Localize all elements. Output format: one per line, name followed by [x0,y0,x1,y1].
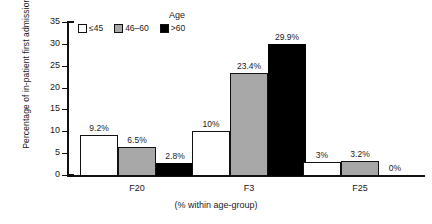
legend-label: ≤45 [89,23,103,33]
bar-F20-2 [156,163,194,176]
y-tick-mark [62,66,67,67]
y-tick-label: 30 [38,38,60,48]
y-tick-mark [62,153,67,154]
y-tick-label: 25 [38,60,60,70]
legend-label: >60 [171,23,185,33]
bar-value-label: 23.4% [226,61,272,71]
y-tick-mark [62,175,67,176]
legend-swatch-black [160,24,169,33]
legend-item-0[interactable]: ≤45 [78,23,103,33]
legend-label: 46–60 [125,23,149,33]
bar-value-label: 29.9% [264,32,310,42]
y-tick-label: 15 [38,103,60,113]
legend: Age ≤4546–60>60 [78,10,278,33]
legend-item-2[interactable]: >60 [160,23,185,33]
y-axis-line [67,21,69,176]
bar-F25-1 [341,161,379,176]
legend-title: Age [112,10,242,20]
bar-chart: Percentage of in-patient first admission… [0,0,432,224]
bar-F20-0 [80,135,118,176]
bar-value-label: 10% [188,119,234,129]
legend-items: ≤4546–60>60 [78,23,278,33]
x-group-label-F25: F25 [303,183,417,193]
legend-swatch-white [78,24,87,33]
bar-value-label: 0% [381,163,409,173]
y-tick-mark [62,88,67,89]
y-axis-top-cap [67,21,74,23]
bar-F20-1 [118,147,156,176]
y-tick-label: 10 [38,125,60,135]
y-tick-label: 0 [38,169,60,179]
x-group-label-F20: F20 [80,183,194,193]
y-axis-title: Percentage of in-patient first admission… [21,0,31,151]
y-tick-label: 20 [38,82,60,92]
y-tick-mark [62,22,67,23]
y-tick-mark [62,44,67,45]
y-tick-label: 5 [38,147,60,157]
bar-F3-0 [192,131,230,176]
bar-F25-0 [303,162,341,176]
legend-item-1[interactable]: 46–60 [114,23,149,33]
y-tick-mark [62,131,67,132]
bar-value-label: 9.2% [76,123,122,133]
x-axis-caption: (% within age-group) [0,200,432,210]
bar-F3-1 [230,73,268,176]
bar-value-label: 3.2% [337,149,383,159]
legend-swatch-gray [114,24,123,33]
x-group-label-F3: F3 [192,183,306,193]
y-tick-mark [62,109,67,110]
bar-value-label: 6.5% [114,135,160,145]
y-tick-label: 35 [38,16,60,26]
